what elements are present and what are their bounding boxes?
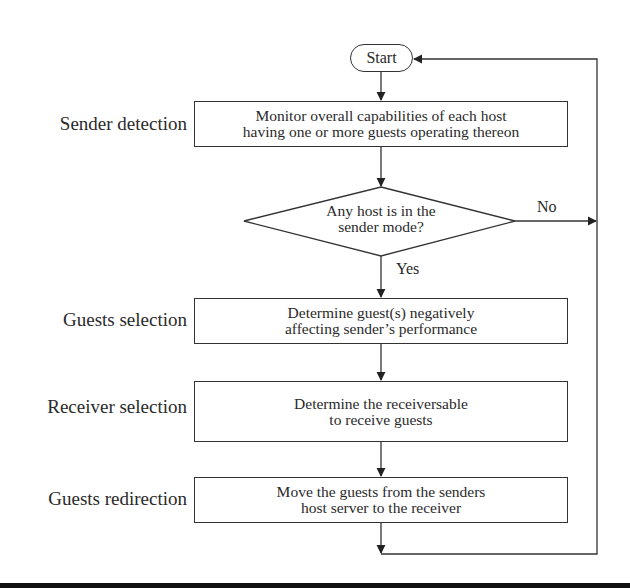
start-label: Start [366,49,396,67]
process-text-line: having one or more guests operating ther… [243,124,519,140]
process-text-line: affecting sender’s performance [285,321,477,337]
process-box-guests-redirection: Move the guests from the senders host se… [194,477,568,523]
process-box-sender-detection: Monitor overall capabilities of each hos… [194,101,568,147]
stage-label-guests-selection: Guests selection [63,309,187,331]
no-label: No [537,198,557,216]
start-terminal: Start [350,44,413,72]
process-box-guests-selection: Determine guest(s) negatively affecting … [194,298,568,344]
process-text-line: Determine guest(s) negatively [288,305,475,321]
process-text-line: host server to the receiver [301,500,461,516]
decision-text-line: Any host is in the [281,203,481,219]
process-text-line: Determine the receiversable [294,396,468,412]
decision-text-line: sender mode? [281,219,481,235]
process-box-receiver-selection: Determine the receiversable to receive g… [194,381,568,442]
stage-label-sender-detection: Sender detection [60,113,187,135]
process-text-line: Monitor overall capabilities of each hos… [256,108,507,124]
stage-label-guests-redirection: Guests redirection [48,488,187,510]
process-text-line: to receive guests [329,412,432,428]
decision-text: Any host is in the sender mode? [281,203,481,235]
process-text-line: Move the guests from the senders [277,484,486,500]
bottom-border-bar [0,583,630,588]
stage-label-receiver-selection: Receiver selection [47,396,187,418]
yes-label: Yes [396,260,419,278]
